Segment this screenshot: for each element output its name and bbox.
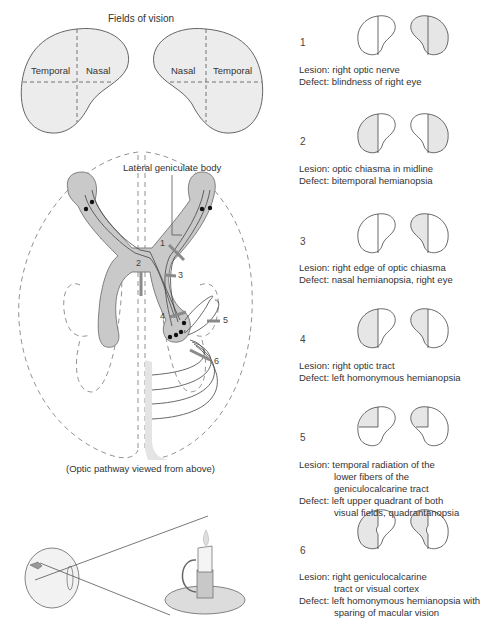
right-temporal-label: Temporal — [213, 65, 252, 77]
case-4-number: 4 — [300, 334, 306, 345]
case-5-lesion-line-3: geniculocalcarine tract — [299, 483, 459, 495]
case-6-text: Lesion: right geniculocalcarine tract or… — [299, 571, 480, 619]
diagram-canvas — [0, 0, 489, 633]
case-5-defect-line-2: visual fields, quadrantanopsia — [299, 507, 459, 519]
case-5-number: 5 — [300, 432, 306, 443]
case-4-lesion: Lesion: right optic tract — [299, 360, 461, 372]
fields-of-vision-title: Fields of vision — [108, 13, 174, 25]
case-5-lesion: Lesion: temporal radiation of the — [299, 459, 459, 471]
left-temporal-label: Temporal — [31, 65, 70, 77]
case-5-lesion-line-2: lower fibers of the — [299, 471, 459, 483]
case-3-lesion: Lesion: right edge of optic chiasma — [299, 262, 453, 274]
case-3-fields — [358, 214, 448, 253]
case-6-defect-line-2: sparing of macular vision — [299, 607, 480, 619]
lateral-geniculate-body-label: Lateral geniculate body — [123, 162, 221, 174]
case-1-fields — [358, 16, 448, 55]
case-1-text: Lesion: right optic nerve Defect: blindn… — [299, 64, 422, 88]
case-5-fields — [358, 407, 448, 446]
right-visual-field — [153, 28, 262, 133]
case-2-lesion: Lesion: optic chiasma in midline — [299, 163, 433, 175]
case-3-defect: Defect: nasal hemianopsia, right eye — [299, 274, 453, 286]
left-visual-field — [21, 28, 128, 133]
lesion-marker-4: 4 — [160, 311, 165, 321]
case-6-number: 6 — [300, 545, 306, 556]
case-1-number: 1 — [300, 37, 306, 48]
case-4-fields — [358, 309, 448, 349]
pathway-caption: (Optic pathway viewed from above) — [66, 463, 215, 475]
right-nasal-label: Nasal — [171, 65, 195, 77]
left-nasal-label: Nasal — [86, 65, 110, 77]
eye-candle-illustration — [25, 516, 245, 615]
lesion-marker-5: 5 — [223, 315, 228, 325]
lesion-marker-6: 6 — [214, 356, 219, 366]
case-2-defect: Defect: bitemporal hemianopsia — [299, 175, 433, 187]
lesion-marker-1: 1 — [160, 238, 165, 248]
case-2-number: 2 — [300, 136, 306, 147]
case-1-lesion: Lesion: right optic nerve — [299, 64, 422, 76]
case-1-defect: Defect: blindness of right eye — [299, 76, 422, 88]
optic-pathway — [19, 152, 253, 460]
case-4-text: Lesion: right optic tract Defect: left h… — [299, 360, 461, 384]
case-5-text: Lesion: temporal radiation of the lower … — [299, 459, 459, 519]
case-6-lesion-line-2: tract or visual cortex — [299, 583, 480, 595]
case-5-defect: Defect: left upper quadrant of both — [299, 495, 459, 507]
lesion-marker-3: 3 — [178, 270, 183, 280]
case-3-text: Lesion: right edge of optic chiasma Defe… — [299, 262, 453, 286]
case-3-number: 3 — [300, 236, 306, 247]
case-2-text: Lesion: optic chiasma in midline Defect:… — [299, 163, 433, 187]
case-6-lesion: Lesion: right geniculocalcarine — [299, 571, 480, 583]
case-2-fields — [358, 114, 448, 154]
case-4-defect: Defect: left homonymous hemianopsia — [299, 372, 461, 384]
lesion-marker-2: 2 — [136, 258, 141, 268]
case-6-defect: Defect: left homonymous hemianopsia with — [299, 595, 480, 607]
